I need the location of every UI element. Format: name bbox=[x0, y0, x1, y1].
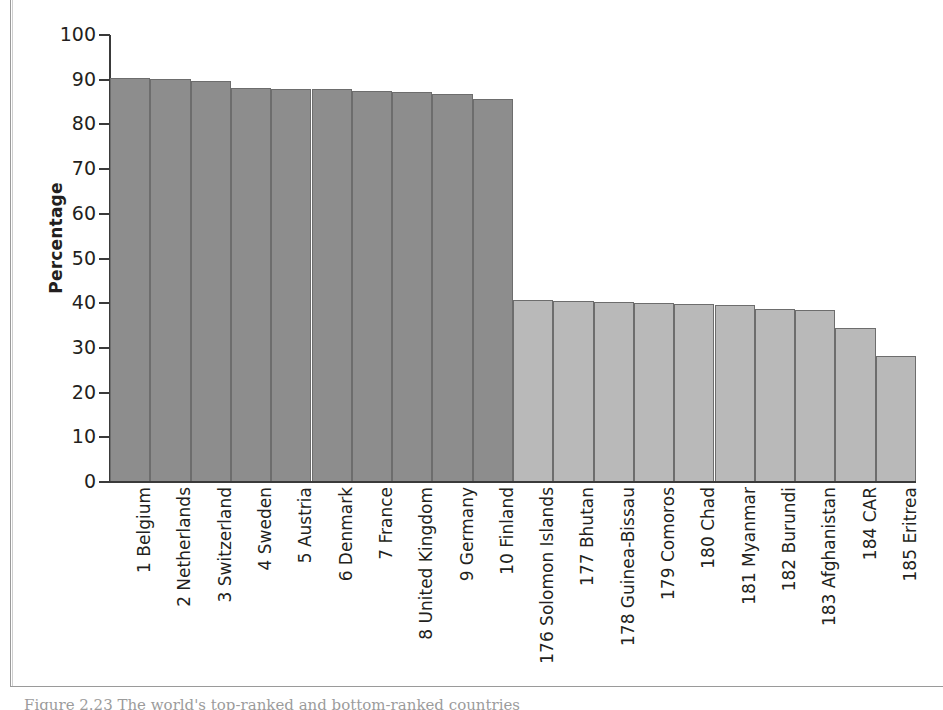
bar bbox=[271, 89, 311, 482]
bar bbox=[795, 310, 835, 482]
x-axis-tick-label: 6 Denmark bbox=[338, 487, 355, 581]
plot-area bbox=[110, 35, 916, 482]
x-axis-tick-label: 176 Solomon Islands bbox=[539, 487, 556, 664]
x-axis-tick-label: 10 Finland bbox=[499, 487, 516, 575]
bar bbox=[835, 328, 875, 482]
x-axis-tick-label: 184 CAR bbox=[862, 487, 879, 560]
x-axis-tick-label: 179 Comoros bbox=[660, 487, 677, 600]
bar bbox=[513, 300, 553, 482]
x-axis-tick-label: 5 Austria bbox=[297, 487, 314, 563]
bar bbox=[674, 304, 714, 482]
x-axis-tick-label: 178 Guinea-Bissau bbox=[620, 487, 637, 646]
x-axis-tick-label: 4 Sweden bbox=[257, 487, 274, 570]
y-axis-tick-label: 30 bbox=[44, 338, 96, 357]
y-axis-tick-label: 0 bbox=[44, 472, 96, 491]
bar bbox=[594, 302, 634, 482]
bar-chart: Percentage 0102030405060708090100 1 Belg… bbox=[0, 0, 943, 686]
bar bbox=[392, 92, 432, 482]
bar bbox=[191, 81, 231, 482]
bar bbox=[876, 356, 916, 483]
bar bbox=[352, 91, 392, 482]
y-axis-tick-label: 40 bbox=[44, 293, 96, 312]
y-axis-tick-label: 80 bbox=[44, 114, 96, 133]
bar bbox=[634, 303, 674, 482]
y-axis-tick-label: 100 bbox=[44, 25, 96, 44]
bar bbox=[150, 79, 190, 482]
y-axis-tick-label: 10 bbox=[44, 427, 96, 446]
x-axis-tick-label: 183 Afghanistan bbox=[821, 487, 838, 626]
x-axis-tick-label: 2 Netherlands bbox=[176, 487, 193, 607]
y-axis-tick-label: 20 bbox=[44, 383, 96, 402]
x-axis-line bbox=[109, 481, 916, 483]
y-axis-tick-label: 70 bbox=[44, 159, 96, 178]
y-axis-tick-label: 50 bbox=[44, 249, 96, 268]
bar bbox=[755, 309, 795, 482]
x-axis-tick-label: 180 Chad bbox=[700, 487, 717, 569]
bar bbox=[312, 89, 352, 482]
x-axis-tick-label: 7 France bbox=[378, 487, 395, 560]
bar bbox=[715, 305, 755, 482]
x-axis-tick-label: 8 United Kingdom bbox=[418, 487, 435, 640]
y-axis-tick-label: 60 bbox=[44, 204, 96, 223]
x-axis-tick-label: 1 Belgium bbox=[136, 487, 153, 573]
x-axis-tick-label: 182 Burundi bbox=[781, 487, 798, 591]
x-axis-tick-label: 3 Switzerland bbox=[217, 487, 234, 602]
x-axis-tick-label: 9 Germany bbox=[459, 487, 476, 581]
bar bbox=[432, 94, 472, 482]
y-axis-ticks: 0102030405060708090100 bbox=[0, 0, 96, 686]
bar bbox=[553, 301, 593, 482]
bar bbox=[473, 99, 513, 482]
x-axis-tick-label: 177 Bhutan bbox=[579, 487, 596, 586]
x-axis-tick-labels: 1 Belgium2 Netherlands3 Switzerland4 Swe… bbox=[110, 487, 916, 687]
figure-caption: Figure 2.23 The world's top-ranked and b… bbox=[24, 696, 924, 710]
x-axis-tick-label: 181 Myanmar bbox=[741, 487, 758, 605]
x-axis-tick-label: 185 Eritrea bbox=[902, 487, 919, 581]
bar bbox=[231, 88, 271, 482]
bar bbox=[110, 78, 150, 482]
y-axis-tick-label: 90 bbox=[44, 70, 96, 89]
